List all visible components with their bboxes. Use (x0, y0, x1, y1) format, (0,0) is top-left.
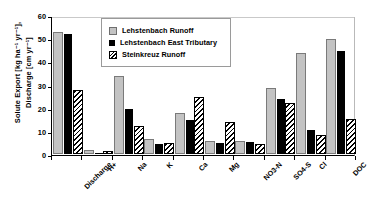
x-axis-label: Cl (317, 160, 328, 171)
bar (175, 113, 185, 154)
legend-item-1: Lehstenbach East Tributary (109, 37, 223, 48)
y-axis-title-line-2: Discharge [cm yr⁻¹] (23, 0, 34, 148)
bar-group (235, 17, 265, 154)
y-axis-tick-mark (48, 110, 51, 111)
bar (53, 32, 63, 154)
bar-group (326, 17, 356, 154)
x-axis-label: Na (136, 160, 149, 173)
y-axis-tick-label: 60 (29, 12, 46, 21)
bar (235, 141, 245, 155)
y-axis-tick-label: 50 (29, 35, 46, 44)
bar-group (296, 17, 326, 154)
bar (144, 139, 154, 154)
bar (64, 34, 72, 154)
bar (114, 76, 124, 154)
y-axis-tick-label: 20 (29, 105, 46, 114)
x-axis-label: Mg (227, 160, 241, 174)
bar (326, 39, 336, 154)
y-axis-tick-mark (48, 87, 51, 88)
legend-item-2: Steinkreuz Runoff (109, 49, 223, 60)
y-axis-tick-mark (48, 133, 51, 134)
legend-swatch-steinkreuz-runoff (109, 51, 117, 59)
bar (216, 143, 224, 155)
bar (164, 143, 174, 154)
y-axis-title: Solute Export [kg ha⁻¹ yr⁻¹], Discharge … (13, 0, 34, 148)
x-axis-labels: DischargeH+NaKCaMgNO3-NSO4-SClDOC (51, 160, 355, 218)
bar (337, 51, 345, 155)
bar (194, 97, 204, 154)
bar (316, 135, 326, 154)
bar (225, 122, 235, 154)
bar (307, 130, 315, 154)
bar (205, 141, 215, 155)
x-axis-label: NO3-N (261, 160, 283, 182)
bar (155, 144, 163, 154)
bar (125, 109, 133, 154)
legend-swatch-lehstenbach-runoff (109, 27, 117, 35)
bar (246, 142, 254, 154)
x-axis-label: K (165, 160, 175, 170)
bar-group (265, 17, 295, 154)
bar-group (53, 17, 83, 154)
legend-item-0: Lehstenbach Runoff (109, 25, 223, 36)
bar (285, 103, 295, 154)
legend: Lehstenbach Runoff Lehstenbach East Trib… (101, 18, 231, 67)
bar (346, 119, 356, 154)
legend-label-2: Steinkreuz Runoff (122, 50, 185, 59)
y-axis-tick-label: 0 (29, 151, 46, 160)
x-axis-label: Ca (196, 160, 209, 173)
legend-swatch-lehstenbach-east-tributary (109, 40, 115, 46)
bar-chart-figure: Solute Export [kg ha⁻¹ yr⁻¹], Discharge … (0, 0, 369, 219)
x-axis-label: SO4-S (291, 160, 313, 182)
y-axis-tick-mark (48, 63, 51, 64)
bar (84, 150, 94, 154)
bar (277, 99, 285, 154)
bar (103, 151, 113, 154)
y-axis-tick-mark (48, 40, 51, 41)
bar (255, 144, 265, 154)
y-axis-tick-label: 40 (29, 58, 46, 67)
bar (95, 153, 103, 154)
legend-label-0: Lehstenbach Runoff (122, 26, 193, 35)
bar (296, 53, 306, 154)
y-axis-tick-mark (48, 17, 51, 18)
x-axis-label: DOC (350, 160, 368, 178)
y-axis-title-line-1: Solute Export [kg ha⁻¹ yr⁻¹], (13, 0, 24, 148)
bar (73, 90, 83, 154)
bar (266, 88, 276, 154)
y-axis-tick-label: 10 (29, 128, 46, 137)
y-axis-tick-label: 30 (29, 82, 46, 91)
x-axis-tick-mark (355, 156, 356, 160)
bar (134, 126, 144, 154)
bar (186, 120, 194, 155)
legend-label-1: Lehstenbach East Tributary (120, 38, 217, 47)
